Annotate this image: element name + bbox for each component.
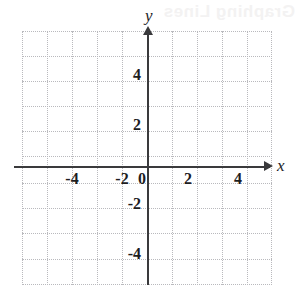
page-bleed-through-watermark: Graphing Lines (150, 2, 295, 22)
gridline-vertical (247, 31, 248, 285)
y-tick-label: -2 (115, 195, 141, 213)
gridline-vertical (197, 31, 198, 285)
y-axis-label: y (145, 6, 153, 26)
y-tick-label: 4 (115, 66, 141, 84)
x-axis-label: x (277, 156, 285, 176)
x-tick-label: 2 (175, 170, 201, 188)
y-tick-label: 2 (115, 116, 141, 134)
gridline-vertical (222, 31, 223, 285)
coordinate-plane-figure: Graphing Lines x y -4 -2 0 2 4 4 2 -2 -4 (0, 0, 300, 292)
x-tick-label: -4 (59, 170, 85, 188)
gridline-vertical (72, 31, 73, 285)
gridline-vertical (97, 31, 98, 285)
gridline-vertical (47, 31, 48, 285)
y-axis-line (147, 33, 149, 285)
y-axis-arrowhead-icon (143, 26, 153, 35)
x-tick-label: 4 (225, 170, 251, 188)
x-axis-line (14, 166, 270, 168)
gridline-vertical (22, 31, 23, 285)
gridline-vertical (172, 31, 173, 285)
y-tick-label: -4 (115, 245, 141, 263)
x-tick-label: 0 (129, 170, 155, 188)
x-axis-arrowhead-icon (264, 161, 273, 171)
gridline-vertical (271, 31, 272, 285)
